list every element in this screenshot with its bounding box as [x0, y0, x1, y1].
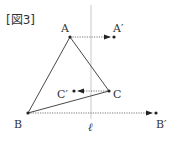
label-line-l: ℓ [88, 121, 93, 134]
arrow-b-to-b-prime [28, 111, 153, 116]
label-c-prime: C′ [57, 88, 68, 101]
label-b-prime: B′ [156, 118, 167, 131]
point-a [68, 35, 71, 38]
diagram-canvas: A A′ C C′ B B′ ℓ [0, 0, 179, 145]
point-a-prime [112, 35, 115, 38]
label-a: A [60, 22, 70, 35]
label-b: B [14, 118, 22, 131]
point-c-prime [72, 89, 75, 92]
point-c [107, 89, 110, 92]
point-b-prime [154, 111, 157, 114]
arrow-a-to-a-prime [70, 35, 111, 40]
triangle-abc [28, 37, 109, 113]
point-b [26, 111, 29, 114]
label-a-prime: A′ [112, 22, 124, 35]
label-c: C [113, 88, 121, 101]
